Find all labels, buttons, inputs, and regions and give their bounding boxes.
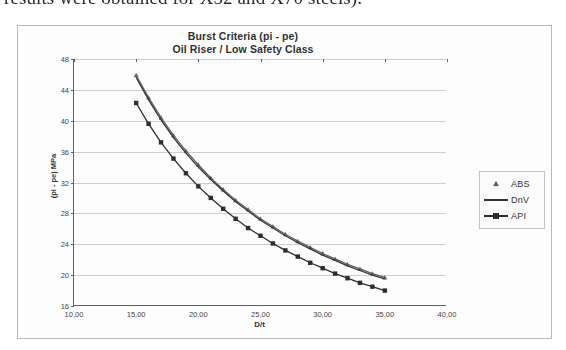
data-point-marker [333,271,337,275]
square-marker-icon [483,209,509,223]
data-point-marker [134,73,139,77]
y-axis-tick-mark [71,152,74,153]
data-point-marker [246,226,250,230]
y-axis-tick-label: 32 [61,178,69,187]
x-axis-tick-label: 25,00 [251,310,270,319]
page-body-text-cutoff: results were obtained for X52 and X70 st… [0,0,566,9]
x-axis-tick-label: 20,00 [189,310,208,319]
x-axis-title: D/t [73,320,446,329]
x-axis-tick-label: 30,00 [313,310,332,319]
y-axis-tick-mark [71,306,74,307]
data-point-marker [233,217,237,221]
line-glyph [484,199,508,201]
x-axis-tick-label: 15,00 [127,310,146,319]
data-point-marker [258,234,262,238]
triangle-marker-icon [483,177,509,191]
data-point-marker [271,241,275,245]
legend-item-label: ABS [511,179,530,189]
x-axis-tick-label: 10,00 [65,310,84,319]
x-axis-tick-mark [198,59,199,62]
x-axis-tick-mark [74,59,75,62]
y-axis-tick-label: 44 [61,85,69,94]
x-axis-tick-mark [136,59,137,62]
y-axis-tick-label: 24 [61,240,69,249]
chart-title-line-2: Oil Riser / Low Safety Class [18,43,468,56]
x-axis-tick-label: 35,00 [375,310,394,319]
x-axis-tick-mark [323,59,324,62]
y-axis-title: (pi - pe) MPa [49,154,58,199]
series-plot [74,59,447,306]
line-marker-icon [483,193,509,207]
y-axis-tick-label: 28 [61,209,69,218]
chart-legend: ABSDnVAPI [479,171,545,229]
plot-area: 16202428323640444810,0015,0020,0025,0030… [73,59,446,306]
y-axis-tick-mark [71,121,74,122]
data-point-marker [345,276,349,280]
series-line-abs [136,75,385,277]
data-point-marker [184,171,188,175]
data-point-marker [221,207,225,211]
y-axis-tick-label: 40 [61,116,69,125]
legend-item-label: DnV [511,195,529,205]
data-point-marker [296,254,300,258]
legend-item-label: API [511,211,526,221]
data-point-marker [358,281,362,285]
y-axis-tick-label: 36 [61,147,69,156]
y-axis-tick-mark [71,275,74,276]
chart-title-line-1: Burst Criteria (pi - pe) [18,30,468,43]
square-glyph [493,213,499,219]
x-axis-tick-label: 40,00 [438,310,457,319]
data-point-marker [209,196,213,200]
data-point-marker [171,156,175,160]
data-point-marker [159,140,163,144]
x-axis-tick-mark [447,59,448,62]
legend-item-api[interactable]: API [483,208,541,224]
data-point-marker [308,261,312,265]
legend-item-dnv[interactable]: DnV [483,192,541,208]
series-line-dnv [136,78,385,279]
data-point-marker [134,101,138,105]
y-axis-tick-mark [71,213,74,214]
legend-item-abs[interactable]: ABS [483,176,541,192]
y-axis-tick-mark [71,183,74,184]
data-point-marker [383,288,387,292]
y-axis-tick-label: 20 [61,271,69,280]
chart-figure-frame: Burst Criteria (pi - pe) Oil Riser / Low… [17,25,552,339]
x-axis-tick-mark [385,59,386,62]
data-point-marker [146,122,150,126]
y-axis-tick-mark [71,244,74,245]
y-axis-tick-label: 48 [61,55,69,64]
data-point-marker [196,184,200,188]
data-point-marker [320,266,324,270]
x-axis-tick-mark [261,59,262,62]
y-axis-tick-mark [71,90,74,91]
chart-title: Burst Criteria (pi - pe) Oil Riser / Low… [18,30,468,56]
data-point-marker [370,285,374,289]
triangle-glyph [493,181,499,186]
data-point-marker [283,248,287,252]
